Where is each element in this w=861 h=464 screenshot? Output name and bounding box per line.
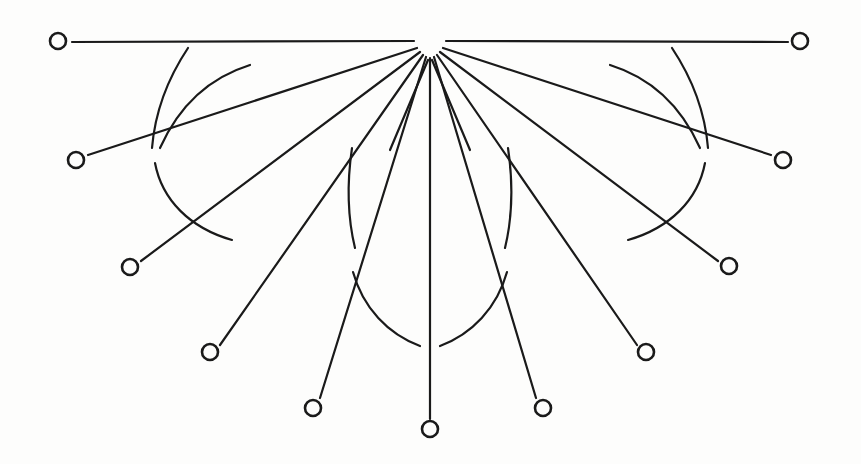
node-center-circle-icon [422, 421, 438, 437]
ray-right-1b [443, 48, 771, 155]
node-left-3-circle-icon [122, 259, 138, 275]
node-right-3-circle-icon [721, 258, 737, 274]
arc-inner-right [440, 272, 507, 346]
ray-left-2 [141, 52, 420, 261]
node-right-2-circle-icon [775, 152, 791, 168]
node-left-5-circle-icon [305, 400, 321, 416]
arc-mid-right [505, 148, 511, 248]
node-left-4-circle-icon [202, 344, 218, 360]
node-left-2-circle-icon [68, 152, 84, 168]
node-right-4-circle-icon [638, 344, 654, 360]
node-left-1-circle-icon [50, 33, 66, 49]
ray-right-1 [446, 41, 788, 42]
ray-right-2 [440, 52, 718, 261]
radial-fan-diagram [0, 0, 861, 464]
ray-layer [72, 41, 788, 419]
ray-right-3 [437, 55, 637, 345]
arc-mid-left [349, 148, 355, 248]
ray-left-3 [220, 55, 423, 345]
ray-left-1 [72, 41, 414, 42]
node-right-5-circle-icon [535, 400, 551, 416]
figure-canvas [0, 0, 861, 464]
ray-right-4 [434, 57, 536, 398]
node-right-1-circle-icon [792, 33, 808, 49]
ray-left-1b [88, 48, 417, 155]
arc-inner-left [353, 272, 420, 346]
ray-left-4 [320, 57, 426, 398]
